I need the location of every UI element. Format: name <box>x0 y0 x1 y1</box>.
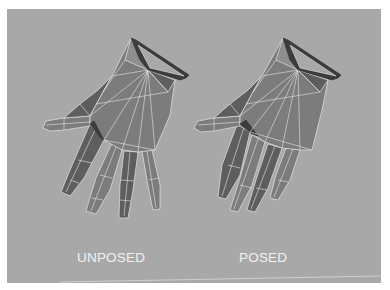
posed-label: POSED <box>239 250 287 265</box>
unposed-pinky-finger <box>142 150 160 210</box>
unposed-ring-finger <box>119 151 138 218</box>
scan-line-artifact <box>60 276 381 282</box>
unposed-hand-mesh <box>43 38 189 218</box>
unposed-palm <box>90 38 175 152</box>
posed-palm <box>240 38 328 150</box>
hand-meshes-figure: .m { fill: #7c7c7c; stroke: #e4e4e4; str… <box>0 0 390 290</box>
unposed-label: UNPOSED <box>77 250 145 265</box>
posed-hand-mesh <box>194 38 341 212</box>
